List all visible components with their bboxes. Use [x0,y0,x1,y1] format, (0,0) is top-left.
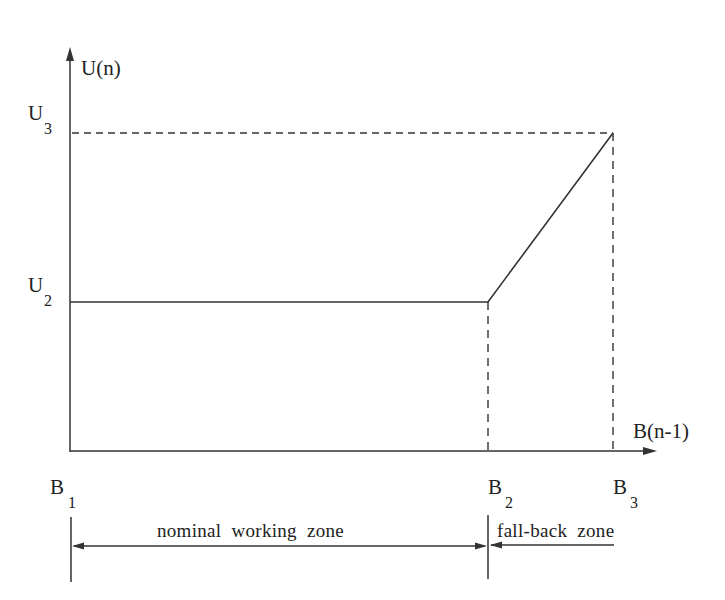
tick-b1: B 1 [50,475,76,511]
nominal-zone-label: nominal working zone [157,520,344,541]
tick-u3-main: U [28,101,43,125]
x-axis-arrow-icon [643,447,657,455]
y-axis-arrow-icon [66,47,74,61]
piecewise-function-diagram: U(n) B(n-1) U 3 U 2 B 1 B 2 B 3 n [0,0,725,600]
function-curve [70,133,613,302]
tick-b2-main: B [488,475,502,499]
y-axis-label: U(n) [81,56,121,80]
tick-u2-sub: 2 [44,292,52,309]
tick-b2-sub: 2 [505,494,513,511]
zone-markers: nominal working zone fall-back zone [71,515,614,582]
nominal-right-arrow-icon [475,543,487,550]
tick-b3: B 3 [613,475,638,511]
tick-b1-sub: 1 [68,494,76,511]
tick-u3-sub: 3 [44,120,52,137]
x-axis-label: B(n-1) [633,419,689,443]
fallback-left-arrow-icon [490,542,502,549]
tick-u2-main: U [28,273,43,297]
tick-b3-main: B [613,475,627,499]
nominal-left-arrow-icon [72,543,84,550]
y-axis: U(n) [66,47,121,452]
x-axis: B(n-1) [70,419,689,455]
tick-u2: U 2 [28,273,52,309]
tick-b1-main: B [50,475,64,499]
tick-b3-sub: 3 [630,494,638,511]
tick-u3: U 3 [28,101,52,137]
tick-b2: B 2 [488,475,513,511]
fallback-zone-label: fall-back zone [497,520,614,541]
